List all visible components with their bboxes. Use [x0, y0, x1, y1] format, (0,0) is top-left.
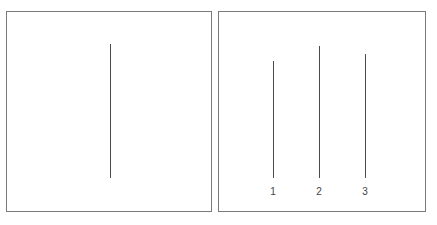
comparison-label-3: 3 [357, 187, 373, 197]
comparison-line-3 [365, 54, 366, 178]
comparison-label-2: 2 [311, 187, 327, 197]
comparison-line-1 [273, 61, 274, 178]
comparison-line-2 [319, 46, 320, 178]
comparison-card [218, 11, 426, 212]
reference-card [6, 11, 212, 212]
reference-line [110, 44, 111, 178]
comparison-label-1: 1 [265, 187, 281, 197]
